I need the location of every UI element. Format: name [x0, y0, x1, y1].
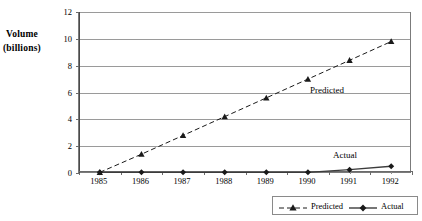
- legend-item-actual[interactable]: Actual: [349, 197, 404, 214]
- annotation-predicted: Predicted: [310, 85, 344, 95]
- plot-area: PredictedActual: [78, 12, 411, 173]
- annotation-actual: Actual: [333, 150, 357, 160]
- data-point-marker: [138, 169, 144, 175]
- x-tick-label: 1989: [245, 176, 285, 186]
- x-tick-label: 1991: [329, 176, 369, 186]
- y-axis-title-line1: Volume: [6, 29, 38, 39]
- data-point-marker: [222, 169, 228, 175]
- chart-figure: Volume (billions) Year PredictedActual 1…: [0, 0, 422, 221]
- x-tick-label: 1988: [204, 176, 244, 186]
- x-tick-label: 1987: [162, 176, 202, 186]
- data-point-marker: [221, 113, 227, 119]
- y-axis-title-line2: (billions): [3, 43, 41, 53]
- y-tick-label: 4: [54, 114, 72, 124]
- data-point-marker: [388, 38, 394, 44]
- data-point-marker: [263, 169, 269, 175]
- y-tick-label: 6: [54, 88, 72, 98]
- x-tick-label: 1985: [79, 176, 119, 186]
- data-point-marker: [180, 169, 186, 175]
- data-point-marker: [346, 57, 352, 63]
- legend-label-actual: Actual: [381, 201, 404, 211]
- legend-item-predicted[interactable]: Predicted: [279, 197, 343, 214]
- data-point-marker: [388, 163, 394, 169]
- x-tick-mark: [412, 171, 413, 175]
- data-point-marker: [347, 167, 353, 173]
- data-point-marker: [180, 132, 186, 138]
- y-tick-label: 10: [54, 34, 72, 44]
- legend-key-predicted-icon: [279, 200, 307, 212]
- y-tick-label: 12: [54, 7, 72, 17]
- x-tick-label: 1992: [370, 176, 410, 186]
- data-point-marker: [138, 151, 144, 157]
- legend-key-actual-icon: [349, 200, 377, 212]
- x-tick-label: 1990: [287, 176, 327, 186]
- x-tick-label: 1986: [120, 176, 160, 186]
- data-point-marker: [305, 76, 311, 82]
- data-point-marker: [305, 169, 311, 175]
- legend-label-predicted: Predicted: [311, 201, 343, 211]
- y-tick-label: 0: [54, 168, 72, 178]
- chart-legend: Predicted Actual: [272, 196, 418, 215]
- data-series-layer: [79, 12, 412, 173]
- data-point-marker: [263, 95, 269, 101]
- y-tick-label: 8: [54, 61, 72, 71]
- y-tick-label: 2: [54, 141, 72, 151]
